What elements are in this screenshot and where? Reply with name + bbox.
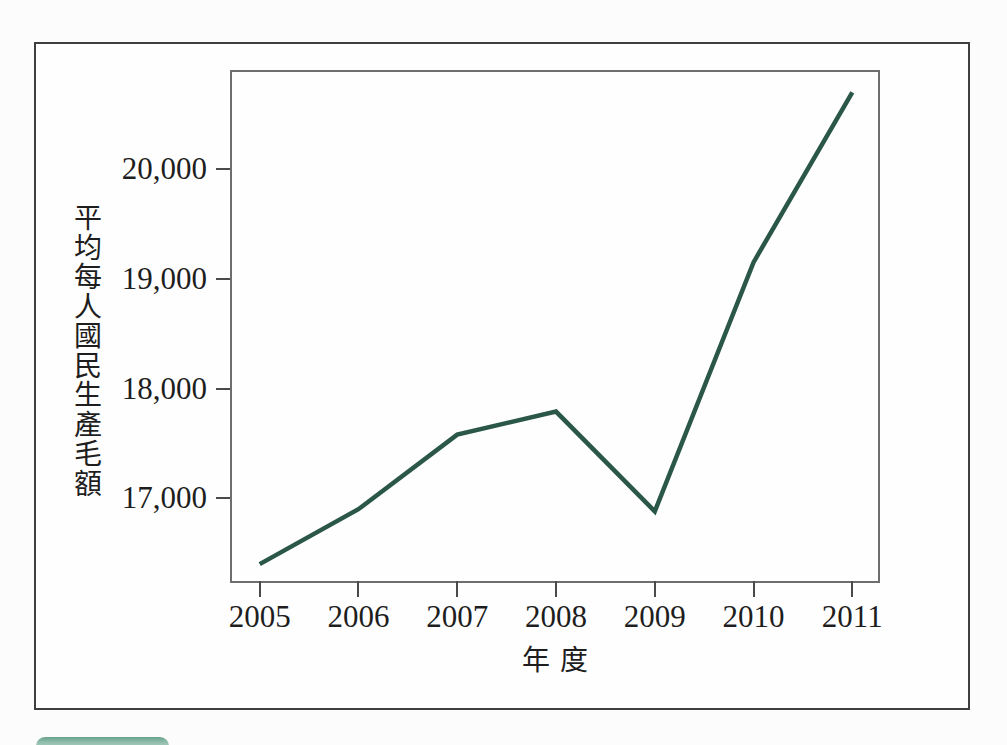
y-axis-title: 平均每人國民生產毛額 [60,204,116,499]
y-axis-title-char: 每 [60,263,116,293]
y-axis-title-char: 民 [60,352,116,382]
x-tick-mark [259,581,261,597]
x-axis-title: 年度 [230,644,880,678]
y-axis-title-char: 生 [60,381,116,411]
plot-area: 2005200620072008200920102011 17,00018,00… [230,70,880,583]
y-axis-title-char: 國 [60,322,116,352]
y-axis-title-char: 均 [60,234,116,264]
page: { "page": { "background": "#fcfcfc" }, "… [0,0,1007,745]
y-tick-mark [216,278,230,280]
y-tick-mark [216,168,230,170]
bottom-edge-tab-button[interactable] [36,737,169,745]
y-axis-title-char: 毛 [60,440,116,470]
y-axis-title-char: 平 [60,204,116,234]
y-axis-title-char: 人 [60,293,116,323]
x-tick-label: 2011 [792,599,912,635]
x-tick-mark [357,581,359,597]
x-tick-mark [753,581,755,597]
line-chart-canvas [232,72,878,581]
x-tick-mark [654,581,656,597]
y-tick-mark [216,497,230,499]
y-axis-title-char: 產 [60,411,116,441]
x-tick-mark [851,581,853,597]
y-tick-mark [216,388,230,390]
x-tick-mark [555,581,557,597]
y-tick-label: 20,000 [82,151,207,187]
x-tick-mark [456,581,458,597]
data-line [260,92,853,564]
y-axis-title-char: 額 [60,470,116,500]
figure-frame: 2005200620072008200920102011 17,00018,00… [34,42,970,710]
